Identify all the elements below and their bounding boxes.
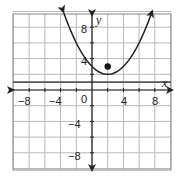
focus-point	[105, 63, 111, 69]
y-axis-label: y	[95, 13, 102, 27]
x-tick-label-8: 8	[152, 95, 158, 107]
x-axis-label: x	[161, 76, 168, 90]
y-tick-label-4: 4	[81, 55, 87, 67]
x-tick-label-neg4: −4	[49, 95, 62, 107]
y-tick-label-neg4: −4	[68, 118, 81, 130]
coordinate-plane: −8 −4 0 4 8 8 4 −4 −8 y x	[0, 0, 178, 184]
x-tick-label-4: 4	[121, 95, 127, 107]
y-tick-label-neg8: −8	[68, 150, 81, 162]
origin-label: 0	[81, 93, 87, 105]
x-tick-label-neg8: −8	[18, 95, 31, 107]
y-tick-label-8: 8	[81, 23, 87, 35]
